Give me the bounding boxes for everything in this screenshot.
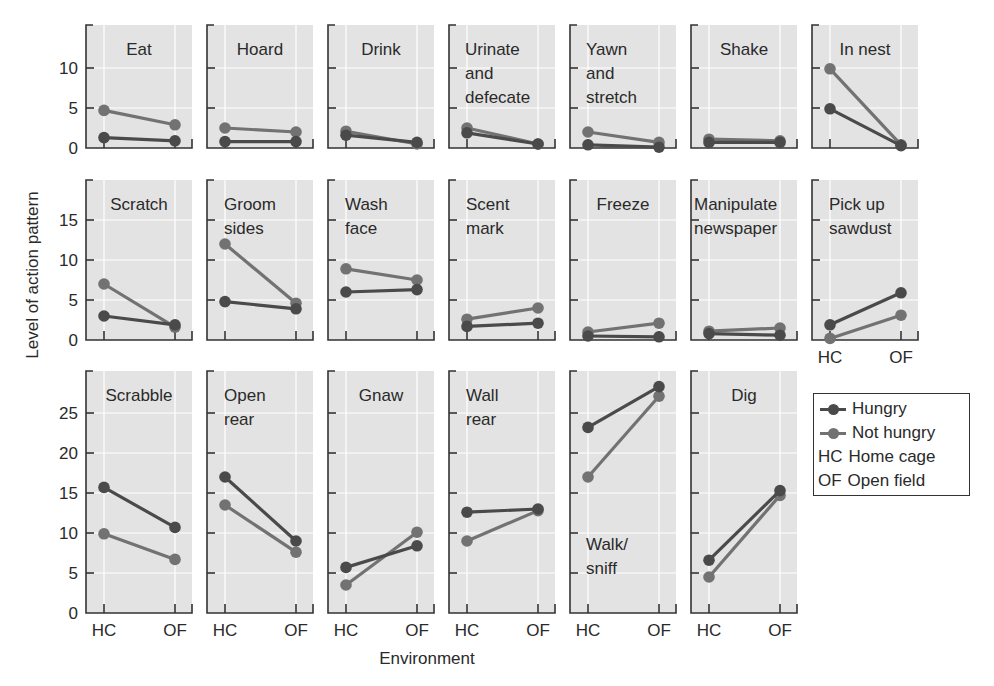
panel-pick-up-sawdust: Pick upsawdustHCOF	[812, 180, 918, 367]
data-point	[774, 137, 786, 149]
panel-title: Scent	[466, 195, 510, 214]
x-axis-label: Environment	[379, 649, 474, 669]
legend-item-hungry: Hungry	[818, 397, 969, 421]
y-tick-label: 0	[69, 604, 78, 623]
panel-title: Pick up	[829, 195, 885, 214]
x-tick-label: OF	[163, 621, 187, 640]
panel-walk-sniff: Walk/sniffHCOF	[570, 371, 676, 640]
legend: Hungry Not hungry HC Home cage OF Open f…	[813, 393, 970, 496]
panel-groom-sides: Groomsides	[207, 180, 313, 340]
legend-code: HC	[818, 445, 843, 469]
data-point	[219, 122, 231, 134]
y-tick-label: 0	[69, 139, 78, 158]
data-point	[290, 303, 302, 315]
data-point	[219, 471, 231, 483]
data-point	[824, 63, 836, 75]
data-point	[340, 129, 352, 141]
panel-title: sniff	[586, 559, 617, 578]
legend-item-not-hungry: Not hungry	[818, 421, 969, 445]
data-point	[340, 263, 352, 275]
data-point	[98, 105, 110, 117]
panel-title: and	[586, 64, 614, 83]
panel-wash-face: Washface	[328, 180, 434, 340]
panel-title: Hoard	[237, 40, 283, 59]
panel-title: defecate	[465, 88, 530, 107]
panel-title: Scrabble	[105, 386, 172, 405]
panel-title: rear	[224, 410, 255, 429]
data-point	[703, 571, 715, 583]
data-point	[169, 319, 181, 331]
data-point	[703, 554, 715, 566]
y-tick-label: 5	[69, 564, 78, 583]
data-point	[774, 485, 786, 497]
panel-title: Manipulate	[694, 195, 777, 214]
data-point	[824, 333, 836, 345]
data-point	[824, 319, 836, 331]
data-point	[582, 471, 594, 483]
x-tick-label: OF	[284, 621, 308, 640]
data-point	[219, 296, 231, 308]
y-tick-label: 15	[59, 484, 78, 503]
data-point	[703, 137, 715, 149]
data-point	[895, 287, 907, 299]
x-tick-label: HC	[576, 621, 601, 640]
legend-item-open-field: OF Open field	[818, 469, 969, 493]
data-point	[653, 317, 665, 329]
data-point	[461, 506, 473, 518]
x-tick-label: HC	[697, 621, 722, 640]
data-point	[582, 422, 594, 434]
data-point	[340, 562, 352, 574]
panel-scratch: 051015Scratch	[59, 180, 192, 350]
y-tick-label: 0	[69, 331, 78, 350]
panel-gnaw: GnawHCOF	[328, 371, 434, 640]
panel-title: sawdust	[829, 219, 892, 238]
data-point	[653, 141, 665, 153]
data-point	[411, 137, 423, 149]
panel-title: stretch	[586, 88, 637, 107]
y-tick-label: 5	[69, 291, 78, 310]
x-tick-label: HC	[92, 621, 117, 640]
x-tick-label: OF	[889, 348, 913, 367]
data-point	[532, 138, 544, 150]
panel-title: newspaper	[694, 219, 778, 238]
panel-wall-rear: WallrearHCOF	[449, 371, 555, 640]
data-point	[411, 540, 423, 552]
data-point	[703, 328, 715, 340]
panel-title: Gnaw	[359, 386, 404, 405]
y-tick-label: 10	[59, 251, 78, 270]
panel-title: Walk/	[586, 535, 628, 554]
data-point	[340, 286, 352, 298]
panel-title: Shake	[720, 40, 768, 59]
data-point	[411, 526, 423, 538]
x-tick-label: OF	[647, 621, 671, 640]
data-point	[461, 127, 473, 139]
data-point	[98, 310, 110, 322]
data-point	[582, 126, 594, 138]
y-axis-label: Level of action pattern	[23, 191, 43, 358]
panel-title: face	[345, 219, 377, 238]
panel-title: Groom	[224, 195, 276, 214]
panel-manipulate-newspaper: Manipulatenewspaper	[691, 180, 797, 341]
data-point	[532, 503, 544, 515]
panel-title: Wall	[466, 386, 498, 405]
data-point	[169, 522, 181, 534]
data-point	[532, 317, 544, 329]
data-point	[98, 482, 110, 494]
panel-urinate-and-defecate: Urinateanddefecate	[449, 25, 555, 150]
panel-freeze: Freeze	[570, 180, 676, 343]
panel-title: Eat	[126, 40, 152, 59]
data-point	[98, 132, 110, 144]
data-point	[219, 136, 231, 148]
panel-title: rear	[466, 410, 497, 429]
data-point	[582, 330, 594, 342]
x-tick-label: OF	[526, 621, 550, 640]
hungry-line-marker-icon	[818, 397, 852, 421]
x-tick-label: HC	[334, 621, 359, 640]
legend-code: OF	[818, 469, 842, 493]
x-tick-label: OF	[405, 621, 429, 640]
data-point	[290, 535, 302, 547]
panel-title: and	[465, 64, 493, 83]
panel-title: In nest	[839, 40, 890, 59]
data-point	[653, 381, 665, 393]
y-tick-label: 20	[59, 444, 78, 463]
